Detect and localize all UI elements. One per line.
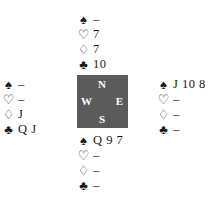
compass-west-label: W — [81, 95, 92, 107]
west-hearts-row: ♡ – — [2, 92, 37, 107]
diamond-icon: ♢ — [2, 107, 15, 122]
east-hand: ♠ J 10 8 ♡ – ♢ – ♣ – — [157, 77, 206, 137]
west-clubs-row: ♣ Q J — [2, 122, 37, 137]
south-clubs-cards: – — [93, 178, 100, 193]
compass-south-label: S — [99, 113, 105, 125]
north-hand: ♠ – ♡ 7 ♢ 7 ♣ 10 — [77, 12, 107, 72]
club-icon: ♣ — [77, 178, 90, 193]
spade-icon: ♠ — [77, 133, 90, 148]
compass-north-label: N — [98, 78, 106, 90]
south-hand: ♠ Q 9 7 ♡ – ♢ – ♣ – — [77, 133, 123, 193]
east-diamonds-cards: – — [173, 107, 180, 122]
east-hearts-cards: – — [173, 92, 180, 107]
west-spades-row: ♠ – — [2, 77, 37, 92]
south-spades-cards: Q 9 7 — [93, 133, 123, 148]
west-clubs-cards: Q J — [18, 122, 37, 137]
north-spades-cards: – — [93, 12, 100, 27]
club-icon: ♣ — [157, 122, 170, 137]
diamond-icon: ♢ — [77, 42, 90, 57]
east-diamonds-row: ♢ – — [157, 107, 206, 122]
west-hearts-cards: – — [18, 92, 25, 107]
south-hearts-cards: – — [93, 148, 100, 163]
spade-icon: ♠ — [157, 77, 170, 92]
heart-icon: ♡ — [77, 27, 90, 42]
north-clubs-row: ♣ 10 — [77, 57, 107, 72]
south-diamonds-cards: – — [93, 163, 100, 178]
north-hearts-cards: 7 — [93, 27, 100, 42]
east-spades-row: ♠ J 10 8 — [157, 77, 206, 92]
west-spades-cards: – — [18, 77, 25, 92]
north-hearts-row: ♡ 7 — [77, 27, 107, 42]
west-diamonds-row: ♢ J — [2, 107, 37, 122]
north-diamonds-cards: 7 — [93, 42, 100, 57]
club-icon: ♣ — [2, 122, 15, 137]
east-hearts-row: ♡ – — [157, 92, 206, 107]
heart-icon: ♡ — [2, 92, 15, 107]
south-clubs-row: ♣ – — [77, 178, 123, 193]
west-hand: ♠ – ♡ – ♢ J ♣ Q J — [2, 77, 37, 137]
south-diamonds-row: ♢ – — [77, 163, 123, 178]
north-clubs-cards: 10 — [93, 57, 107, 72]
east-clubs-cards: – — [173, 122, 180, 137]
spade-icon: ♠ — [77, 12, 90, 27]
compass-east-label: E — [116, 95, 123, 107]
club-icon: ♣ — [77, 57, 90, 72]
spade-icon: ♠ — [2, 77, 15, 92]
north-diamonds-row: ♢ 7 — [77, 42, 107, 57]
diamond-icon: ♢ — [157, 107, 170, 122]
south-hearts-row: ♡ – — [77, 148, 123, 163]
south-spades-row: ♠ Q 9 7 — [77, 133, 123, 148]
compass-box: N W E S — [77, 75, 128, 128]
east-clubs-row: ♣ – — [157, 122, 206, 137]
north-spades-row: ♠ – — [77, 12, 107, 27]
diamond-icon: ♢ — [77, 163, 90, 178]
heart-icon: ♡ — [157, 92, 170, 107]
west-diamonds-cards: J — [18, 107, 23, 122]
east-spades-cards: J 10 8 — [173, 77, 206, 92]
heart-icon: ♡ — [77, 148, 90, 163]
